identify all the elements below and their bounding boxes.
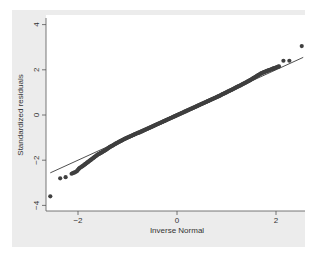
y-tick-label: 4 — [32, 22, 41, 27]
data-point — [64, 175, 68, 179]
data-point — [281, 59, 285, 63]
y-tick-label: −4 — [32, 200, 41, 210]
x-axis-title: Inverse Normal — [150, 226, 204, 235]
y-tick-label: 0 — [32, 112, 41, 117]
x-axis-ticks: −202 — [73, 211, 278, 225]
data-point — [58, 176, 62, 180]
data-point — [300, 44, 304, 48]
plot-area — [46, 15, 305, 211]
y-axis-title: Standardized residuals — [16, 74, 25, 155]
x-tick-label: 0 — [175, 216, 180, 225]
qq-plot: −4−2024 −202 Inverse Normal Standardized… — [12, 10, 305, 247]
x-tick-label: 2 — [274, 216, 279, 225]
data-point — [276, 65, 280, 69]
x-tick-label: −2 — [73, 216, 83, 225]
y-tick-label: 2 — [32, 67, 41, 72]
data-point — [48, 194, 52, 198]
data-point — [287, 59, 291, 63]
y-axis-ticks: −4−2024 — [32, 22, 46, 210]
y-tick-label: −2 — [32, 155, 41, 165]
chart-figure: −4−2024 −202 Inverse Normal Standardized… — [12, 10, 305, 247]
